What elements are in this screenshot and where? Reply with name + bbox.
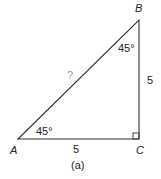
triangle	[18, 20, 139, 139]
vertex-b-label: B	[135, 3, 142, 14]
vertex-a-label: A	[10, 145, 17, 156]
angle-b-label: 45°	[118, 43, 135, 54]
angle-a-label: 45°	[36, 126, 53, 137]
vertex-c-label: C	[136, 145, 144, 156]
side-bc-label: 5	[147, 75, 153, 86]
figure-caption: (a)	[71, 160, 84, 171]
right-angle-marker	[133, 133, 139, 139]
side-ab-label: ?	[67, 70, 73, 81]
side-ac-label: 5	[73, 144, 79, 155]
